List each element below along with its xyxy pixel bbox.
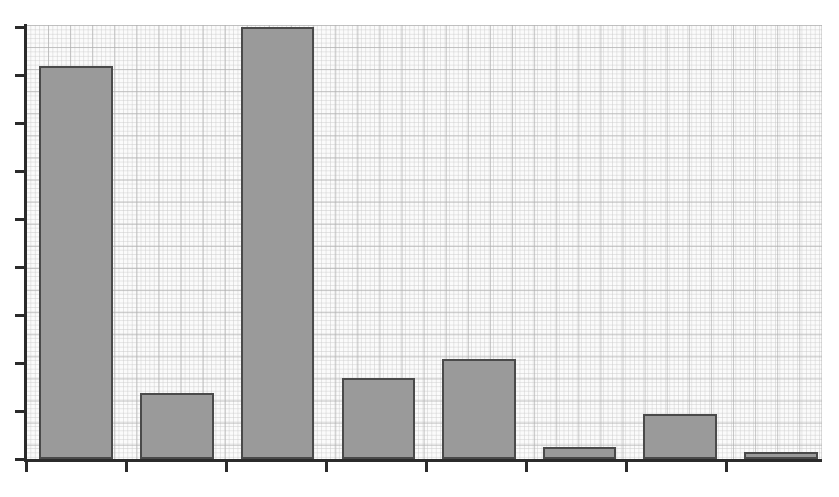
y-axis-tick-9 <box>15 410 26 413</box>
bar-6 <box>543 447 616 459</box>
bar-4 <box>342 378 415 459</box>
bar-5 <box>442 359 516 459</box>
x-axis-tick-3 <box>225 461 228 472</box>
y-axis-tick-4 <box>15 170 26 173</box>
y-axis-tick-1 <box>15 26 26 29</box>
bar-8 <box>744 452 818 459</box>
bar-chart <box>0 0 839 497</box>
bar-7 <box>643 414 717 459</box>
y-axis-tick-5 <box>15 218 26 221</box>
x-axis-tick-7 <box>625 461 628 472</box>
x-axis-tick-1 <box>25 461 28 472</box>
y-axis-tick-2 <box>15 74 26 77</box>
x-axis-tick-6 <box>525 461 528 472</box>
y-axis-tick-8 <box>15 362 26 365</box>
y-axis-tick-3 <box>15 122 26 125</box>
y-axis-tick-7 <box>15 314 26 317</box>
x-axis-line <box>24 459 822 462</box>
bar-2 <box>140 393 214 459</box>
y-axis-line <box>24 24 27 462</box>
bar-1 <box>39 66 113 459</box>
x-axis-tick-5 <box>425 461 428 472</box>
x-axis-tick-8 <box>725 461 728 472</box>
y-axis-tick-6 <box>15 266 26 269</box>
bar-3 <box>241 27 314 459</box>
x-axis-tick-2 <box>125 461 128 472</box>
x-axis-tick-4 <box>325 461 328 472</box>
